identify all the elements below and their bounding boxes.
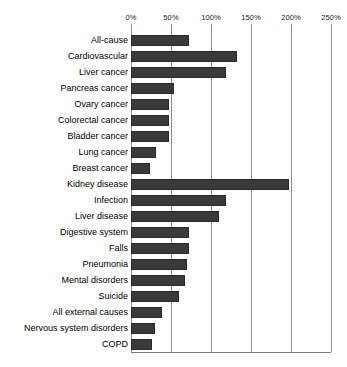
- bar-row: Breast cancer: [0, 160, 347, 176]
- category-label: Nervous system disorders: [24, 322, 128, 334]
- x-tick-label-150: 150%: [241, 13, 261, 23]
- category-label: Bladder cancer: [67, 130, 128, 142]
- x-tick-label-0: 0%: [125, 13, 136, 23]
- x-tick-mark-50: [171, 24, 172, 32]
- x-axis-tick-labels: 0% 50% 100% 150% 200% 250%: [0, 13, 347, 25]
- category-label: Colorectal cancer: [58, 114, 128, 126]
- bar-row: All-cause: [0, 32, 347, 48]
- x-tick-mark-0: [131, 24, 132, 32]
- bar: [131, 195, 226, 206]
- bar: [131, 179, 289, 190]
- category-label: Ovary cancer: [74, 98, 128, 110]
- bar: [131, 275, 185, 286]
- category-label: Mental disorders: [61, 274, 128, 286]
- x-axis-baseline: [131, 352, 331, 353]
- bar-row: Lung cancer: [0, 144, 347, 160]
- bar: [131, 339, 152, 350]
- category-label: Digestive system: [60, 226, 128, 238]
- bar-row: Nervous system disorders: [0, 320, 347, 336]
- bar: [131, 211, 219, 222]
- bar-row: Falls: [0, 240, 347, 256]
- bar: [131, 323, 155, 334]
- bar-row: All external causes: [0, 304, 347, 320]
- bar-row: Pneumonia: [0, 256, 347, 272]
- x-tick-mark-250: [331, 24, 332, 32]
- category-label: Cardiovascular: [68, 50, 128, 62]
- category-label: Liver cancer: [79, 66, 128, 78]
- bar-row: Mental disorders: [0, 272, 347, 288]
- category-label: Kidney disease: [67, 178, 128, 190]
- category-label: Pneumonia: [82, 258, 128, 270]
- bar-rows: All-causeCardiovascularLiver cancerPancr…: [0, 32, 347, 352]
- bar: [131, 147, 156, 158]
- category-label: Liver disease: [75, 210, 128, 222]
- category-label: Suicide: [98, 290, 128, 302]
- bar: [131, 307, 162, 318]
- bar: [131, 163, 150, 174]
- category-label: Falls: [109, 242, 128, 254]
- bar: [131, 131, 169, 142]
- bar-row: Bladder cancer: [0, 128, 347, 144]
- bar-row: Liver disease: [0, 208, 347, 224]
- bar-row: Pancreas cancer: [0, 80, 347, 96]
- bar: [131, 51, 237, 62]
- bar-row: Ovary cancer: [0, 96, 347, 112]
- x-tick-label-50: 50%: [163, 13, 178, 23]
- bar-row: COPD: [0, 336, 347, 352]
- category-label: COPD: [102, 338, 128, 350]
- category-label: All external causes: [52, 306, 128, 318]
- bar: [131, 259, 187, 270]
- category-label: Lung cancer: [78, 146, 128, 158]
- bar-row: Digestive system: [0, 224, 347, 240]
- bar: [131, 35, 189, 46]
- x-tick-mark-100: [211, 24, 212, 32]
- bar: [131, 227, 189, 238]
- bar-row: Liver cancer: [0, 64, 347, 80]
- bar: [131, 115, 169, 126]
- bar-row: Colorectal cancer: [0, 112, 347, 128]
- bar: [131, 291, 179, 302]
- bar-row: Infection: [0, 192, 347, 208]
- category-label: Pancreas cancer: [60, 82, 128, 94]
- bar: [131, 243, 189, 254]
- bar-row: Cardiovascular: [0, 48, 347, 64]
- x-tick-mark-150: [251, 24, 252, 32]
- category-label: Infection: [94, 194, 128, 206]
- x-tick-mark-200: [291, 24, 292, 32]
- bar-chart: 0% 50% 100% 150% 200% 250% All-causeCard…: [0, 0, 347, 367]
- category-label: Breast cancer: [72, 162, 128, 174]
- x-tick-label-250: 250%: [321, 13, 341, 23]
- x-tick-label-100: 100%: [201, 13, 221, 23]
- bar: [131, 99, 169, 110]
- x-tick-label-200: 200%: [281, 13, 301, 23]
- category-label: All-cause: [91, 34, 128, 46]
- bar-row: Suicide: [0, 288, 347, 304]
- bar-row: Kidney disease: [0, 176, 347, 192]
- bar: [131, 83, 174, 94]
- bar: [131, 67, 226, 78]
